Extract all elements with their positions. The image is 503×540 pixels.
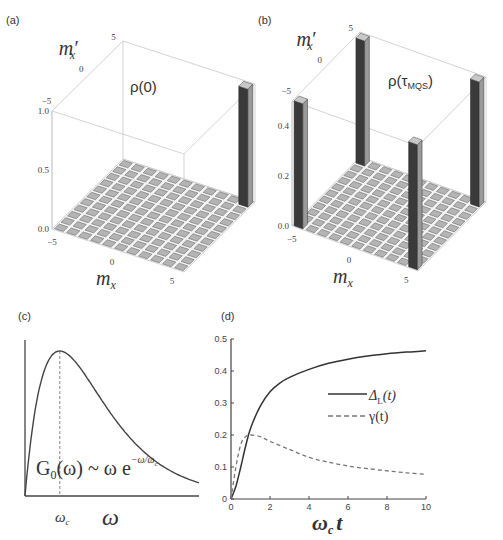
panel-d-line-chart: 00.10.20.30.40.5 0246810 ΔL(t) γ(t) ωct — [214, 334, 431, 537]
bar-column — [239, 81, 253, 207]
y-tick-label: 0.3 — [214, 398, 227, 408]
z-tick-label: 0.0 — [38, 224, 50, 234]
y-tick-label: 0 — [318, 55, 323, 65]
panel-b-title: ρ(τMQS) — [388, 72, 433, 91]
y-axis-label: m′x — [59, 37, 78, 62]
x-tick-label: 0 — [228, 502, 233, 512]
y-tick-label: 0.1 — [214, 462, 227, 472]
y-tick-label: 0 — [79, 64, 84, 74]
panel-d-xlabel: ωct — [312, 510, 343, 537]
bar-column — [356, 33, 369, 166]
y-tick-label: −5 — [42, 96, 52, 106]
z-tick-label: 1.0 — [38, 106, 50, 116]
panel-d-series-gamma — [231, 435, 426, 499]
z-tick-label: 0.4 — [278, 121, 290, 131]
y-tick-label: −5 — [282, 86, 292, 96]
panel-c-xlabel: ω — [102, 504, 119, 530]
z-tick-label: 0.2 — [278, 171, 289, 181]
x-axis-label: mx — [96, 267, 116, 292]
y-tick-label: 5 — [111, 32, 116, 42]
x-tick-label: 2 — [267, 502, 272, 512]
panel-a-3d-bar-plot: ρ(0) 0.00.51.0−505−505mxm′x — [38, 32, 255, 291]
x-tick-label: 6 — [345, 502, 350, 512]
bar-column — [409, 137, 422, 270]
figure-canvas: ρ(0) 0.00.51.0−505−505mxm′x ρ(τMQS) 0.00… — [0, 0, 503, 540]
panel-c-spectral-density-plot: G0(ω) ~ ω e−ω/ωc ωc ω — [25, 340, 199, 530]
x-tick-label: 10 — [421, 502, 431, 512]
panel-d-series-delta-L — [231, 351, 426, 499]
x-axis-label: mx — [333, 265, 353, 290]
bar-column — [470, 74, 483, 207]
x-tick-label: 5 — [404, 275, 409, 285]
panel-a-floor-grid — [52, 159, 255, 272]
legend-label-delta-L: ΔL(t) — [368, 388, 396, 406]
panel-a-bars — [239, 81, 253, 207]
x-tick-label: −5 — [47, 237, 57, 247]
legend-label-gamma: γ(t) — [368, 409, 389, 425]
x-tick-label: 0 — [110, 257, 115, 267]
y-tick-label: 0.5 — [214, 334, 227, 344]
panel-b-floor-grid — [292, 157, 486, 271]
y-tick-label: 0.2 — [214, 430, 227, 440]
x-tick-label: 8 — [384, 502, 389, 512]
x-tick-label: 5 — [170, 276, 175, 286]
y-tick-label: 5 — [348, 23, 353, 33]
panel-b-3d-bar-plot: ρ(τMQS) 0.00.20.4−505−505mxm′x — [278, 23, 486, 289]
z-tick-label: 0.5 — [38, 165, 50, 175]
panel-c-xtick-omega-c: ωc — [55, 509, 70, 527]
z-tick-label: 0.0 — [278, 221, 290, 231]
y-axis-label: m′x — [297, 28, 316, 53]
y-tick-label: 0.4 — [214, 366, 227, 376]
x-tick-label: 4 — [306, 502, 311, 512]
y-tick-label: 0 — [222, 494, 227, 504]
panel-d-legend: ΔL(t) γ(t) — [328, 388, 396, 425]
bar-column — [294, 96, 307, 229]
panel-a-title: ρ(0) — [130, 78, 157, 95]
x-tick-label: 0 — [347, 255, 352, 265]
x-tick-label: −5 — [287, 234, 297, 244]
panel-c-formula: G0(ω) ~ ω e−ω/ωc — [36, 454, 158, 482]
